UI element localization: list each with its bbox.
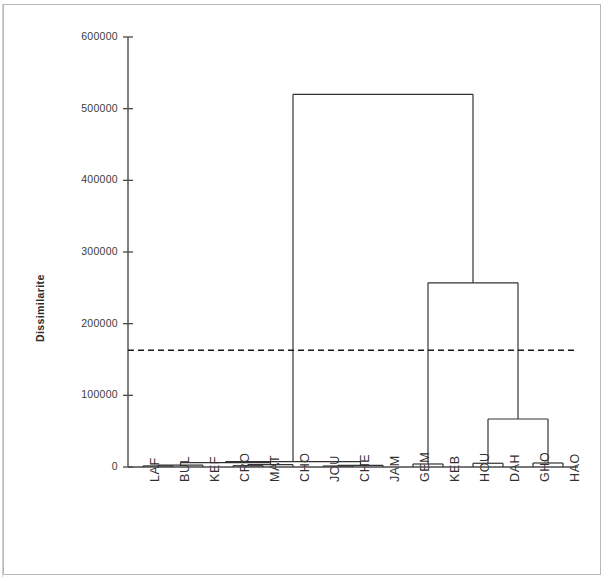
dendrogram-tree xyxy=(143,94,563,467)
axes xyxy=(123,37,578,467)
dendrogram-plot xyxy=(0,0,608,581)
dendrogram-figure: Dissimilarite 01000002000003000004000005… xyxy=(0,0,608,581)
